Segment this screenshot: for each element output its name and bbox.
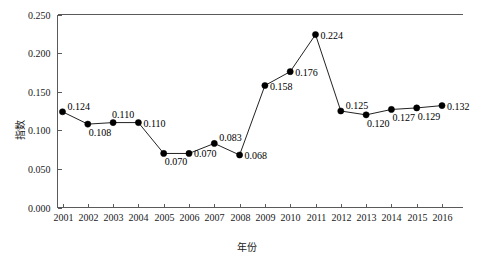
data-point-label: 0.108 <box>89 127 112 138</box>
y-tick-label: 0.200 <box>28 48 51 59</box>
x-tick-label: 2007 <box>205 212 225 223</box>
y-tick-label: 0.150 <box>28 87 51 98</box>
x-tick-label: 2013 <box>357 212 377 223</box>
data-point-label: 0.124 <box>68 101 91 112</box>
data-point-marker <box>59 109 65 115</box>
y-tick-label: 0.050 <box>28 164 51 175</box>
y-tick-label: 0.000 <box>28 203 51 214</box>
data-point-label: 0.070 <box>165 156 188 167</box>
x-tick-label: 2004 <box>129 212 149 223</box>
data-point-label: 0.110 <box>112 109 134 120</box>
x-tick-label: 2009 <box>256 212 276 223</box>
y-tick-label: 0.250 <box>28 10 51 21</box>
data-point-marker <box>135 119 141 125</box>
data-point-label: 0.083 <box>219 132 242 143</box>
data-point-label: 0.110 <box>143 118 165 129</box>
data-point-label: 0.129 <box>418 111 441 122</box>
data-point-marker <box>110 119 116 125</box>
data-point-label: 0.176 <box>295 67 318 78</box>
chart-page: 0.0000.0500.1000.1500.2000.250 200120022… <box>0 0 478 258</box>
x-tick-label: 2006 <box>180 212 200 223</box>
x-tick-label: 2001 <box>54 212 74 223</box>
x-tick-label: 2010 <box>281 212 301 223</box>
data-point-label: 0.068 <box>245 150 268 161</box>
x-tick-label: 2016 <box>433 212 453 223</box>
x-tick-label: 2003 <box>104 212 124 223</box>
y-tick-label: 0.100 <box>28 125 51 136</box>
data-point-label: 0.224 <box>321 30 344 41</box>
line-chart: 0.0000.0500.1000.1500.2000.250 200120022… <box>0 0 478 258</box>
x-tick-label: 2011 <box>307 212 327 223</box>
data-point-label: 0.132 <box>447 101 470 112</box>
x-tick-label: 2012 <box>332 212 352 223</box>
x-tick-label: 2005 <box>155 212 175 223</box>
x-axis-title: 年份 <box>237 241 257 253</box>
y-axis-title: 指数 <box>14 120 26 140</box>
data-point-label: 0.158 <box>270 81 293 92</box>
data-point-marker <box>312 31 318 37</box>
x-tick-label: 2014 <box>382 212 402 223</box>
x-tick-label: 2008 <box>231 212 251 223</box>
data-point-marker <box>439 103 445 109</box>
data-point-marker <box>338 108 344 114</box>
data-point-label: 0.127 <box>392 112 415 123</box>
data-point-marker <box>237 152 243 158</box>
data-point-label: 0.125 <box>346 100 369 111</box>
x-tick-label: 2015 <box>408 212 428 223</box>
data-point-marker <box>262 82 268 88</box>
data-point-marker <box>287 69 293 75</box>
data-point-label: 0.120 <box>367 118 390 129</box>
data-point-marker <box>211 140 217 146</box>
x-tick-label: 2002 <box>79 212 99 223</box>
data-point-label: 0.070 <box>194 148 217 159</box>
